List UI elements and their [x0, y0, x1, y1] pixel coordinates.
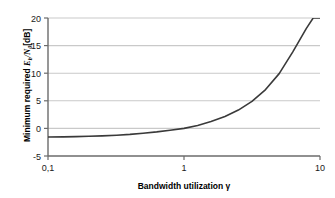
x-axis-title-group: Bandwidth utilization γ	[138, 181, 231, 191]
x-tick-label-10: 10	[315, 163, 325, 173]
y-axis-title-prefix: Minimum required	[22, 66, 32, 142]
y-tick-label-10: 10	[31, 69, 41, 79]
y-tick-label-20: 20	[31, 14, 41, 24]
y-tick-label-5: 5	[36, 96, 41, 106]
y-tick-label-minus5: -5	[33, 152, 41, 162]
chart-figure: 20 15 10 5 0 -5 0,1 1 10 Minimum require…	[0, 0, 335, 198]
y-tick-label-0: 0	[36, 124, 41, 134]
y-axis-title: Minimum required Eb/N0[dB]	[22, 29, 33, 142]
x-tick-label-0point1: 0,1	[42, 163, 55, 173]
x-tick-label-1: 1	[181, 163, 186, 173]
shannon-bound-chart: 20 15 10 5 0 -5 0,1 1 10 Minimum require…	[0, 0, 335, 198]
x-axis-title: Bandwidth utilization γ	[138, 181, 231, 191]
y-axis-title-units: [dB]	[22, 29, 32, 46]
y-axis-title-group: Minimum required Eb/N0[dB]	[22, 29, 33, 142]
